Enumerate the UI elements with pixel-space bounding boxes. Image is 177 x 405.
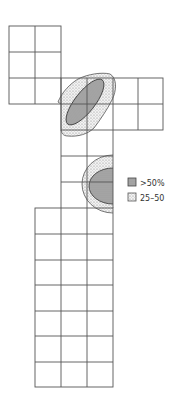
top-left-block [9,26,61,104]
legend: >50% 25–50 [128,178,165,203]
legend-label-mid: 25–50 [140,194,164,203]
legend-swatch-high [128,178,136,186]
legend-item-mid: 25–50 [128,193,164,203]
legend-swatch-mid [128,193,136,201]
legend-item-high: >50% [128,178,165,188]
legend-label-high: >50% [140,179,165,188]
bottom-block [35,208,113,387]
density-grid-diagram: >50% 25–50 [0,0,177,405]
